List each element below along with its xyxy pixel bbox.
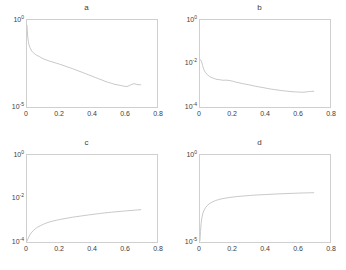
xtick-d-2: 0.4 [260, 245, 270, 252]
xtick-d-3: 0.6 [293, 245, 303, 252]
xtick-b-0: 0 [197, 110, 201, 117]
subplot-c: c 100 10-2 10-4 0 0.2 0.4 0.6 0.8 [0, 135, 173, 270]
xtick-b-2: 0.4 [260, 110, 270, 117]
xtick-b-1: 0.2 [227, 110, 237, 117]
xtick-d-1: 0.2 [227, 245, 237, 252]
subplot-a-title: a [0, 3, 173, 12]
subplot-a: a 100 10-5 0 0.2 0.4 0.6 0.8 [0, 0, 173, 135]
subplot-d: d 100 10-5 0 0.2 0.4 0.6 0.8 [173, 135, 346, 270]
xtick-a-0: 0 [24, 110, 28, 117]
ytick-b-1: 10-2 [185, 59, 197, 66]
subplot-a-curve [27, 25, 141, 86]
xtick-a-4: 0.8 [153, 110, 163, 117]
subplot-b-axes [199, 19, 331, 108]
xtick-d-4: 0.8 [326, 245, 336, 252]
xtick-c-4: 0.8 [153, 245, 163, 252]
ytick-c-1: 10-2 [12, 194, 24, 201]
subplot-d-curve [200, 193, 314, 241]
ytick-a-0: 100 [13, 16, 24, 23]
xtick-b-3: 0.6 [293, 110, 303, 117]
xtick-c-0: 0 [24, 245, 28, 252]
subplot-c-y-ticklabels: 100 10-2 10-4 [0, 154, 24, 243]
subplot-b-y-ticklabels: 100 10-2 10-4 [173, 19, 197, 108]
xtick-a-2: 0.4 [87, 110, 97, 117]
subplot-b-x-ticklabels: 0 0.2 0.4 0.6 0.8 [199, 110, 331, 122]
subplot-c-plot-area [27, 155, 157, 242]
subplot-d-title: d [173, 138, 346, 147]
subplot-b-title: b [173, 3, 346, 12]
xtick-d-0: 0 [197, 245, 201, 252]
subplot-b: b 100 10-2 10-4 0 0.2 0.4 0.6 0.8 [173, 0, 346, 135]
ytick-a-1: 10-5 [12, 103, 24, 110]
subplot-a-x-ticklabels: 0 0.2 0.4 0.6 0.8 [26, 110, 158, 122]
xtick-a-1: 0.2 [54, 110, 64, 117]
ytick-d-0: 100 [186, 151, 197, 158]
ytick-b-2: 10-4 [185, 103, 197, 110]
subplot-c-axes [26, 154, 158, 243]
subplot-c-title: c [0, 138, 173, 147]
subplot-b-curve [200, 60, 314, 93]
subplot-d-y-ticklabels: 100 10-5 [173, 154, 197, 243]
subplot-d-axes [199, 154, 331, 243]
subplot-d-x-ticklabels: 0 0.2 0.4 0.6 0.8 [199, 245, 331, 257]
ytick-d-1: 10-5 [185, 238, 197, 245]
subplot-b-plot-area [200, 20, 330, 107]
xtick-c-1: 0.2 [54, 245, 64, 252]
ytick-b-0: 100 [186, 16, 197, 23]
subplot-a-y-ticklabels: 100 10-5 [0, 19, 24, 108]
figure-container: a 100 10-5 0 0.2 0.4 0.6 0.8 b 100 10-2 … [0, 0, 346, 270]
xtick-a-3: 0.6 [120, 110, 130, 117]
subplot-a-axes [26, 19, 158, 108]
ytick-c-0: 100 [13, 151, 24, 158]
subplot-d-plot-area [200, 155, 330, 242]
xtick-c-2: 0.4 [87, 245, 97, 252]
xtick-b-4: 0.8 [326, 110, 336, 117]
subplot-a-plot-area [27, 20, 157, 107]
subplot-c-x-ticklabels: 0 0.2 0.4 0.6 0.8 [26, 245, 158, 257]
subplot-c-curve [27, 210, 141, 241]
ytick-c-2: 10-4 [12, 238, 24, 245]
xtick-c-3: 0.6 [120, 245, 130, 252]
